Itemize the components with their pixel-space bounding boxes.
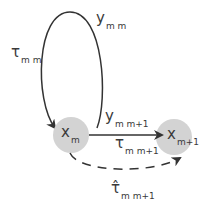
transition-tau-label: τm m+1	[115, 135, 159, 151]
self-loop-y-label: ym m	[96, 10, 126, 26]
node-x-m-plus-1-label: xm+1	[167, 126, 199, 142]
node-x-m-label: xm	[61, 124, 80, 140]
transition-y-label: ym m+1	[105, 108, 149, 124]
estimated-tau-label: τ̂m m+1	[111, 180, 155, 196]
self-loop-edge	[41, 12, 102, 128]
self-loop-tau-label: τm m	[11, 44, 41, 60]
